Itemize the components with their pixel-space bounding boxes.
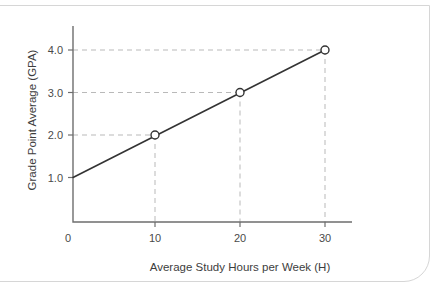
y-tick-labels: 1.0 2.0 3.0 4.0 bbox=[48, 44, 63, 184]
data-point-30-4.0[interactable] bbox=[321, 46, 329, 54]
axis-spines bbox=[73, 26, 352, 222]
x-axis-ticks bbox=[155, 222, 325, 227]
x-tick-label-0: 0 bbox=[65, 232, 71, 244]
gpa-vs-study-hours-line-chart: 1.0 2.0 3.0 4.0 0 10 20 30 Average Study… bbox=[0, 0, 441, 292]
data-point-10-2.0[interactable] bbox=[151, 131, 159, 139]
data-line-gpa bbox=[73, 50, 325, 178]
y-tick-label-4: 4.0 bbox=[48, 44, 63, 56]
y-axis-title: Grade Point Average (GPA) bbox=[26, 49, 38, 190]
x-tick-label-10: 10 bbox=[149, 232, 161, 244]
y-tick-label-1: 1.0 bbox=[48, 172, 63, 184]
gridlines-horizontal bbox=[73, 50, 325, 135]
data-point-20-3.0[interactable] bbox=[236, 89, 244, 97]
y-axis-ticks bbox=[68, 50, 73, 178]
y-tick-label-3: 3.0 bbox=[48, 87, 63, 99]
x-axis-title: Average Study Hours per Week (H) bbox=[150, 261, 331, 273]
x-tick-labels: 0 10 20 30 bbox=[65, 232, 331, 244]
y-tick-label-2: 2.0 bbox=[48, 129, 63, 141]
chart-area: 1.0 2.0 3.0 4.0 0 10 20 30 Average Study… bbox=[0, 0, 441, 292]
gridlines-vertical bbox=[155, 50, 325, 222]
x-tick-label-30: 30 bbox=[319, 232, 331, 244]
x-tick-label-20: 20 bbox=[234, 232, 246, 244]
